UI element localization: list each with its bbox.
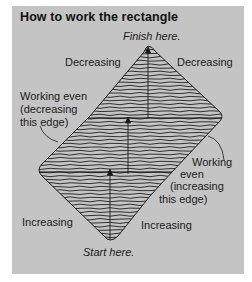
- increasing-left-label: Increasing: [22, 216, 73, 229]
- left-edge-label-3: this edge): [20, 116, 68, 129]
- increasing-right-label: Increasing: [141, 219, 192, 232]
- decreasing-right-label: Decreasing: [177, 56, 233, 69]
- left-edge-label-2: (decreasing: [20, 103, 77, 116]
- right-edge-label-4: this edge): [159, 193, 207, 206]
- right-edge-label-1: Working: [192, 156, 232, 169]
- right-edge-label-3: (increasing: [170, 180, 224, 193]
- right-edge-label-2: even: [180, 168, 204, 181]
- left-edge-label-1: Working even: [20, 90, 87, 103]
- finish-label: Finish here.: [123, 30, 180, 43]
- decreasing-left-label: Decreasing: [65, 56, 121, 69]
- knitted-rows: [30, 49, 230, 238]
- start-label: Start here.: [83, 246, 134, 259]
